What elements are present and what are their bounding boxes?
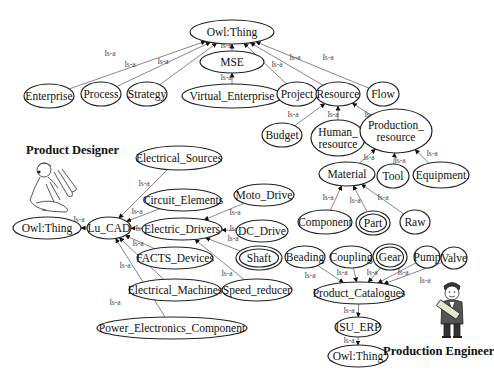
node-owl-left[interactable]: Owl:Thing — [13, 217, 81, 239]
node-process[interactable]: Process — [81, 82, 121, 106]
node-strategy[interactable]: Strategy — [127, 82, 167, 106]
edge-label: Is-a — [104, 49, 116, 58]
edge-label: Is-a — [287, 110, 299, 119]
edge-label: Is-a — [363, 153, 375, 162]
node-beading[interactable]: Beading — [285, 246, 325, 268]
node-label: Strategy — [128, 88, 167, 101]
node-label: Electric_Drivers — [144, 223, 221, 235]
node-label: ISU_ERP — [335, 321, 380, 333]
node-mse[interactable]: MSE — [200, 51, 264, 73]
node-label: resource — [377, 131, 416, 143]
node-tool[interactable]: Tool — [377, 164, 409, 188]
node-label: Tool — [383, 170, 404, 182]
edge-label: Is-a — [366, 268, 378, 277]
node-label: Human_ — [318, 126, 358, 138]
node-dc-drive[interactable]: DC_Drive — [236, 220, 288, 242]
node-project[interactable]: Project — [277, 82, 317, 106]
production-engineer-label: Production Engineer — [383, 344, 494, 359]
node-coupling[interactable]: Coupling — [330, 246, 373, 268]
node-label: Component — [298, 216, 352, 229]
edge-label: Is-a — [343, 306, 355, 315]
is-a-edge-budget-to-resource — [295, 104, 325, 126]
node-facts-devices[interactable]: FACTS_Devices — [136, 247, 214, 269]
product-designer-label: Product Designer — [26, 143, 119, 158]
is-a-edge-coupling-to-product_catalogues — [353, 268, 356, 282]
node-label: Coupling — [330, 251, 373, 264]
edge-label: Is-a — [109, 298, 121, 307]
node-label: DC_Drive — [238, 225, 286, 237]
node-electric-drivers[interactable]: Electric_Drivers — [142, 218, 222, 240]
product-designer-figure-icon — [24, 158, 82, 214]
node-label: FACTS_Devices — [136, 252, 214, 264]
node-flow[interactable]: Flow — [367, 82, 399, 106]
node-label: Flow — [371, 88, 395, 100]
node-valve[interactable]: Valve — [441, 247, 467, 269]
node-label: Electrical_Machines — [128, 284, 223, 296]
node-budget[interactable]: Budget — [262, 123, 302, 147]
edge-label: Is-a — [377, 193, 389, 202]
node-label: Raw — [404, 216, 426, 228]
edge-label: Is-a — [221, 269, 233, 278]
node-resource[interactable]: Resource — [316, 82, 360, 106]
edge-label: Is-a — [426, 149, 438, 158]
production-engineer-figure-icon — [434, 280, 470, 340]
node-label: Gear — [379, 251, 402, 263]
edge-label: Is-a — [322, 193, 334, 202]
node-label: Shaft — [247, 252, 272, 264]
node-human-resource[interactable]: Human_resource — [311, 120, 365, 156]
edge-label: Is-a — [229, 208, 241, 217]
node-gear[interactable]: Gear — [373, 244, 407, 270]
node-speed-reducer[interactable]: Speed_reducer — [222, 279, 292, 301]
node-circuit-elements[interactable]: Circuit_Elements — [143, 189, 224, 211]
edge-label: Is-a — [157, 57, 169, 66]
node-label: Resource — [317, 88, 360, 100]
node-power-electronics-component[interactable]: Power_Electronics_Component — [97, 317, 247, 339]
node-electrical-machines[interactable]: Electrical_Machines — [128, 279, 223, 301]
edge-label: Is-a — [124, 60, 136, 69]
node-raw[interactable]: Raw — [400, 210, 430, 234]
node-label: Valve — [441, 252, 467, 264]
node-enterprise[interactable]: Enterprise — [24, 84, 74, 108]
edge-label: Is-a — [119, 261, 131, 270]
edge-label: Is-a — [327, 110, 339, 119]
node-lu-cad[interactable]: Lu_CAD — [87, 217, 131, 239]
edge-label: Is-a — [322, 53, 334, 62]
node-electrical-sources[interactable]: Electrical_Sources — [136, 146, 223, 170]
node-label: Owl:Thing — [207, 26, 258, 39]
edge-label: Is-a — [132, 239, 144, 248]
node-label: Product_Catalogues — [313, 287, 406, 300]
node-part[interactable]: Part — [356, 211, 390, 235]
node-label: Production_ — [368, 119, 424, 131]
node-shaft[interactable]: Shaft — [236, 246, 282, 270]
node-label: Moto_Drive — [236, 189, 293, 201]
node-component[interactable]: Component — [298, 210, 353, 234]
node-material[interactable]: Material — [319, 162, 375, 186]
node-label: Part — [364, 217, 383, 229]
node-owl-top[interactable]: Owl:Thing — [190, 20, 274, 44]
node-label: Enterprise — [25, 90, 72, 103]
node-label: resource — [319, 138, 358, 150]
node-pump[interactable]: Pump — [414, 246, 441, 268]
node-isu-erp[interactable]: ISU_ERP — [335, 317, 381, 337]
node-label: Circuit_Elements — [143, 194, 224, 206]
node-production-resource[interactable]: Production_resource — [360, 109, 432, 153]
edge-label: Is-a — [304, 271, 316, 280]
edge-label: Is-a — [289, 53, 301, 62]
node-label: Budget — [265, 129, 299, 142]
node-equipment[interactable]: Equipment — [413, 162, 469, 188]
node-moto-drive[interactable]: Moto_Drive — [234, 184, 294, 206]
edge-label: Is-a — [220, 73, 232, 82]
node-owl-bottom[interactable]: Owl:Thing — [328, 345, 388, 367]
node-label: Beading — [286, 251, 325, 264]
node-label: Owl:Thing — [22, 222, 73, 235]
node-label: Electrical_Sources — [136, 152, 223, 164]
edge-label: Is-a — [131, 207, 143, 216]
node-label: Power_Electronics_Component — [99, 322, 246, 335]
node-label: Material — [328, 168, 367, 180]
node-virtual-enterprise[interactable]: Virtual_Enterprise — [182, 84, 282, 108]
node-product-catalogues[interactable]: Product_Catalogues — [313, 282, 406, 304]
node-label: Speed_reducer — [223, 284, 291, 297]
edge-label: Is-a — [419, 276, 431, 285]
node-label: Owl:Thing — [333, 350, 384, 363]
node-label: Lu_CAD — [88, 222, 131, 234]
